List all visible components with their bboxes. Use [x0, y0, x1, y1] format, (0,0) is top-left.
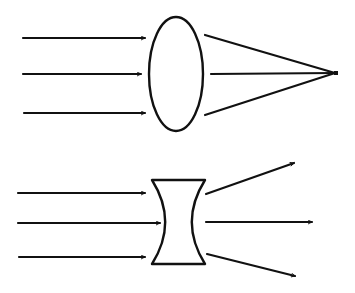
converging-ray-3: [205, 73, 335, 115]
diagram-canvas: [0, 0, 355, 293]
diverging-ray-1: [206, 163, 294, 194]
converging-ray-1: [205, 35, 335, 73]
converging-ray-2: [211, 73, 335, 74]
diverging-ray-3: [207, 254, 295, 276]
lens-diagram: [0, 0, 355, 293]
diverging-lens-group: [18, 163, 312, 276]
converging-lens-group: [23, 17, 338, 131]
convex-lens: [149, 17, 203, 131]
focal-point: [334, 71, 338, 75]
